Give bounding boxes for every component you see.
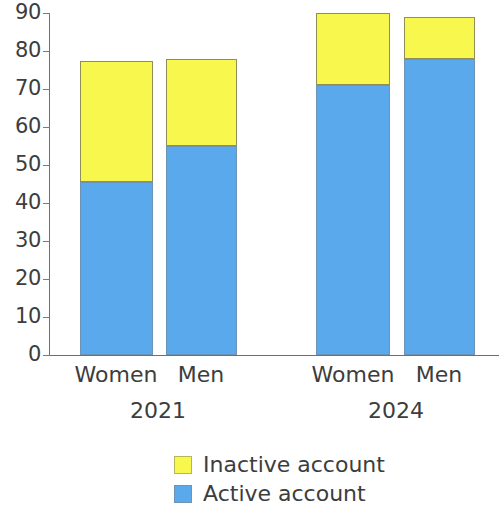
bar-segment-inactive-women-2024 xyxy=(316,13,390,85)
y-axis-tick-40 xyxy=(43,203,50,204)
y-axis-tick-label: 90 xyxy=(0,2,41,23)
legend-swatch-icon xyxy=(174,485,192,503)
y-axis-tick-60 xyxy=(43,127,50,128)
y-axis-tick-20 xyxy=(43,279,50,280)
x-axis-line xyxy=(49,355,499,356)
bar-segment-active-men-2024 xyxy=(404,59,475,355)
x-axis-group-label-2021: 2021 xyxy=(98,398,218,424)
y-axis-line xyxy=(49,13,50,356)
y-axis-tick-80 xyxy=(43,51,50,52)
bar-segment-inactive-women-2021 xyxy=(80,61,153,183)
legend-item[interactable]: Active account xyxy=(174,479,385,508)
y-axis-tick-label: 80 xyxy=(0,40,41,61)
bar-segment-active-women-2021 xyxy=(80,182,153,355)
y-axis-tick-label: 40 xyxy=(0,192,41,213)
x-axis-label-1: Men xyxy=(141,362,261,388)
legend-item[interactable]: Inactive account xyxy=(174,450,385,479)
y-axis-tick-label: 50 xyxy=(0,154,41,175)
y-axis-tick-0 xyxy=(43,355,50,356)
legend-label: Inactive account xyxy=(203,453,385,477)
legend-label: Active account xyxy=(203,482,366,506)
y-axis-tick-30 xyxy=(43,241,50,242)
y-axis-tick-label: 0 xyxy=(0,344,41,365)
legend-swatch-icon xyxy=(174,456,192,474)
bar-segment-inactive-men-2024 xyxy=(404,17,475,59)
y-axis-tick-label: 60 xyxy=(0,116,41,137)
x-axis-group-label-2024: 2024 xyxy=(336,398,456,424)
y-axis-tick-90 xyxy=(43,13,50,14)
bar-segment-active-men-2021 xyxy=(166,146,237,355)
bar-women-2021 xyxy=(80,61,153,356)
y-axis-tick-label: 10 xyxy=(0,306,41,327)
y-axis-tick-label: 20 xyxy=(0,268,41,289)
y-axis-tick-label: 30 xyxy=(0,230,41,251)
y-axis-tick-label: 70 xyxy=(0,78,41,99)
bar-men-2024 xyxy=(404,17,475,355)
y-axis-tick-70 xyxy=(43,89,50,90)
bar-women-2024 xyxy=(316,13,390,355)
y-axis-tick-50 xyxy=(43,165,50,166)
chart-legend: Inactive accountActive account xyxy=(174,450,385,508)
bar-segment-inactive-men-2021 xyxy=(166,59,237,146)
y-axis-tick-10 xyxy=(43,317,50,318)
x-axis-label-3: Men xyxy=(379,362,499,388)
bar-segment-active-women-2024 xyxy=(316,85,390,355)
bar-men-2021 xyxy=(166,59,237,355)
stacked-bar-chart: 9080706050403020100 WomenMenWomenMen 202… xyxy=(0,0,499,511)
